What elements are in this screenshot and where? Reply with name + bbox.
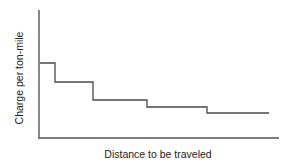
step-chart: Charge per ton-mile Distance to be trave…: [0, 0, 286, 165]
charge-step-line: [40, 63, 269, 113]
x-axis-label: Distance to be traveled: [104, 148, 212, 160]
y-axis-label: Charge per ton-mile: [13, 31, 25, 124]
